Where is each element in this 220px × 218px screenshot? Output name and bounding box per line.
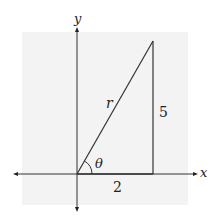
y-axis-up-arrow-icon (75, 27, 79, 32)
adjacent-side-label: 2 (113, 180, 122, 194)
x-axis-left-arrow-icon (13, 172, 18, 176)
y-axis-label: y (74, 12, 81, 25)
angle-label: θ (95, 157, 103, 170)
opposite-side-label: 5 (159, 105, 168, 119)
x-axis-label: x (200, 166, 207, 179)
y-axis-down-arrow-icon (75, 207, 79, 212)
hypotenuse-label: r (106, 96, 113, 110)
x-axis-right-arrow-icon (193, 172, 198, 176)
